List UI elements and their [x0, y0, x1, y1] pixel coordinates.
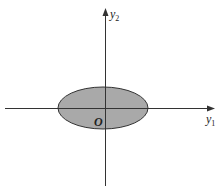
- arrow-up-icon: [103, 8, 109, 16]
- horizontal-axis-label: y1: [205, 112, 215, 128]
- vertical-axis-label: y2: [109, 7, 119, 23]
- origin-label: O: [94, 115, 103, 129]
- diagram-canvas: y2 y1 O: [0, 0, 219, 195]
- arrow-right-icon: [207, 106, 215, 112]
